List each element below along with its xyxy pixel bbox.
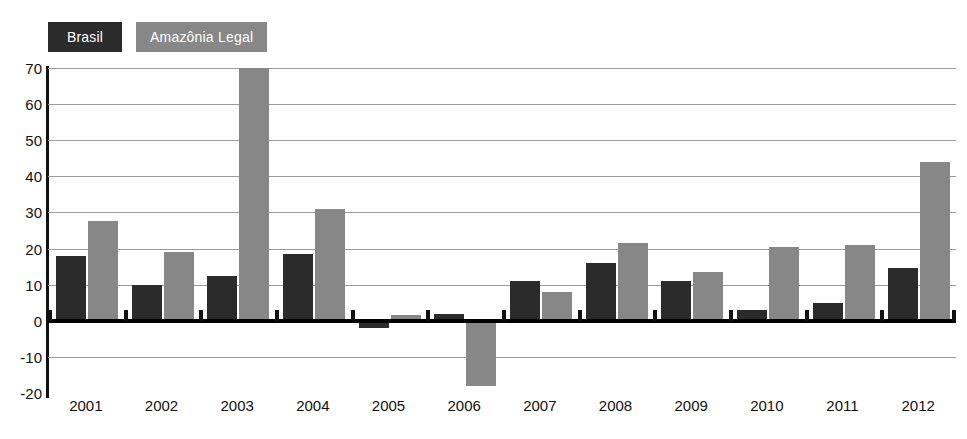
bar-amazonia-2007 [542,292,572,321]
y-axis-labels: 706050403020100-10-20 [0,68,42,393]
bar-brasil-2004 [283,254,313,321]
bar-amazonia-2011 [845,245,875,321]
bar-amazonia-2008 [618,243,648,321]
bar-brasil-2008 [586,263,616,321]
bar-group [578,68,654,393]
bar-chart: Brasil Amazônia Legal 706050403020100-10… [0,0,967,439]
x-tick-label-2005: 2005 [351,398,427,413]
legend-item-brasil: Brasil [48,22,122,52]
bar-amazonia-2001 [88,221,118,320]
plot-area [48,68,956,393]
bar-amazonia-2004 [315,209,345,321]
y-tick-label: 40 [0,169,42,184]
y-tick-label: 0 [0,313,42,328]
bar-brasil-2001 [56,256,86,321]
y-tick-label: 30 [0,205,42,220]
bar-group [653,68,729,393]
chart-legend: Brasil Amazônia Legal [48,22,267,52]
bar-group [48,68,124,393]
legend-label-amazonia: Amazônia Legal [150,30,253,44]
x-tick-label-2004: 2004 [275,398,351,413]
x-axis-tick [952,310,956,321]
y-tick-label: 60 [0,97,42,112]
x-axis-tick [48,310,52,321]
x-tick-label-2007: 2007 [502,398,578,413]
legend-label-brasil: Brasil [67,30,103,44]
x-tick-label-2009: 2009 [653,398,729,413]
bar-brasil-2009 [661,281,691,321]
bar-amazonia-2003 [239,68,269,321]
legend-item-amazonia: Amazônia Legal [136,22,267,52]
bar-group [502,68,578,393]
x-axis-tick [199,310,203,321]
x-axis-tick [729,310,733,321]
y-tick-label: 70 [0,61,42,76]
x-tick-label-2011: 2011 [805,398,881,413]
x-axis-tick [426,310,430,321]
bar-brasil-2003 [207,276,237,321]
x-axis-tick [351,310,355,321]
bar-group [199,68,275,393]
bar-brasil-2007 [510,281,540,321]
x-tick-label-2006: 2006 [426,398,502,413]
x-axis-tick [124,310,128,321]
bar-amazonia-2010 [769,247,799,321]
x-tick-label-2001: 2001 [48,398,124,413]
x-tick-label-2008: 2008 [578,398,654,413]
x-axis-labels: 2001200220032004200520062007200820092010… [48,398,956,426]
y-tick-label: -10 [0,349,42,364]
bar-group [729,68,805,393]
bars-layer [48,68,956,393]
bar-group [275,68,351,393]
x-tick-label-2012: 2012 [880,398,956,413]
x-axis-tick [653,310,657,321]
y-tick-label: -20 [0,386,42,401]
bar-group [351,68,427,393]
bar-amazonia-2009 [693,272,723,321]
y-tick-label: 10 [0,277,42,292]
bar-group [805,68,881,393]
bar-group [124,68,200,393]
bar-group [426,68,502,393]
x-axis-tick [275,310,279,321]
bar-brasil-2002 [132,285,162,321]
x-tick-label-2010: 2010 [729,398,805,413]
bar-amazonia-2012 [920,162,950,321]
x-axis-tick [805,310,809,321]
bar-amazonia-2002 [164,252,194,321]
x-axis-tick [502,310,506,321]
y-tick-label: 50 [0,133,42,148]
bar-brasil-2012 [888,268,918,320]
x-tick-label-2002: 2002 [124,398,200,413]
bar-group [880,68,956,393]
bar-amazonia-2006 [466,321,496,386]
y-tick-label: 20 [0,241,42,256]
x-axis-tick [578,310,582,321]
x-tick-label-2003: 2003 [199,398,275,413]
x-axis-tick [880,310,884,321]
